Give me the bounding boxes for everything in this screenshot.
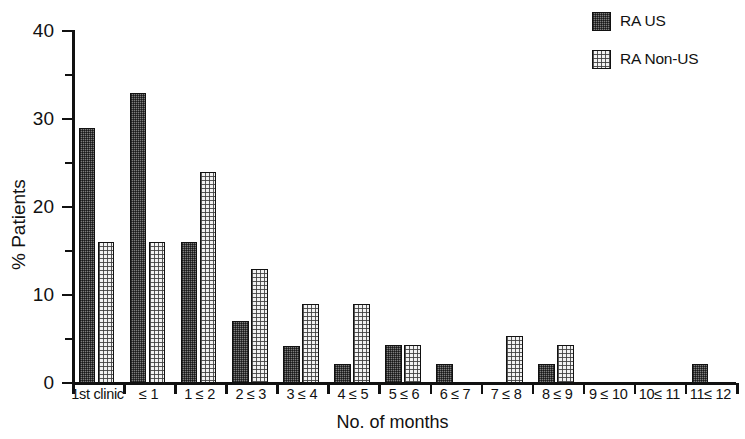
bar-ra-non-us (557, 345, 574, 383)
y-axis-tick-label: 0 (0, 372, 54, 394)
x-axis-category-label: 11≤ 12 (670, 386, 745, 402)
bar-ra-non-us (98, 242, 115, 383)
bar-ra-us (538, 364, 555, 383)
bar-ra-us (130, 93, 147, 383)
legend-label-ra-us: RA US (620, 12, 666, 30)
bar-ra-us (181, 242, 198, 383)
bar-ra-us (692, 364, 709, 383)
x-axis-title: No. of months (0, 412, 745, 433)
bar-ra-non-us (251, 269, 268, 383)
bar-ra-us (334, 364, 351, 383)
x-axis-title-text: No. of months (336, 412, 448, 432)
chart-figure: RA US RA Non-US % Patients 0102030401st … (0, 0, 745, 439)
y-axis-tick-major (62, 206, 72, 208)
y-axis-tick-minor (65, 338, 72, 340)
bar-ra-non-us (302, 304, 319, 383)
y-axis-tick-major (62, 294, 72, 296)
y-axis-title: % Patients (8, 179, 30, 270)
y-axis-tick-minor (65, 250, 72, 252)
y-axis-tick-label: 40 (0, 20, 54, 42)
bar-ra-non-us (506, 336, 523, 383)
bar-ra-us (283, 346, 300, 383)
y-axis-tick-major (62, 118, 72, 120)
y-axis-tick-label: 30 (0, 108, 54, 130)
bar-ra-non-us (149, 242, 166, 383)
bar-ra-non-us (404, 345, 421, 383)
bar-ra-non-us (200, 172, 217, 383)
y-axis-tick-minor (65, 162, 72, 164)
y-axis-tick-label: 10 (0, 284, 54, 306)
bar-ra-us (385, 345, 402, 383)
bar-ra-us (232, 321, 249, 383)
y-axis-tick-minor (65, 74, 72, 76)
plot-area (72, 31, 736, 383)
legend-swatch-ra-us (592, 12, 611, 31)
y-axis-tick-label: 20 (0, 196, 54, 218)
y-axis-tick-major (62, 382, 72, 384)
bar-ra-us (79, 128, 96, 383)
y-axis-tick-major (62, 30, 72, 32)
bar-ra-us (436, 364, 453, 383)
bar-ra-non-us (353, 304, 370, 383)
